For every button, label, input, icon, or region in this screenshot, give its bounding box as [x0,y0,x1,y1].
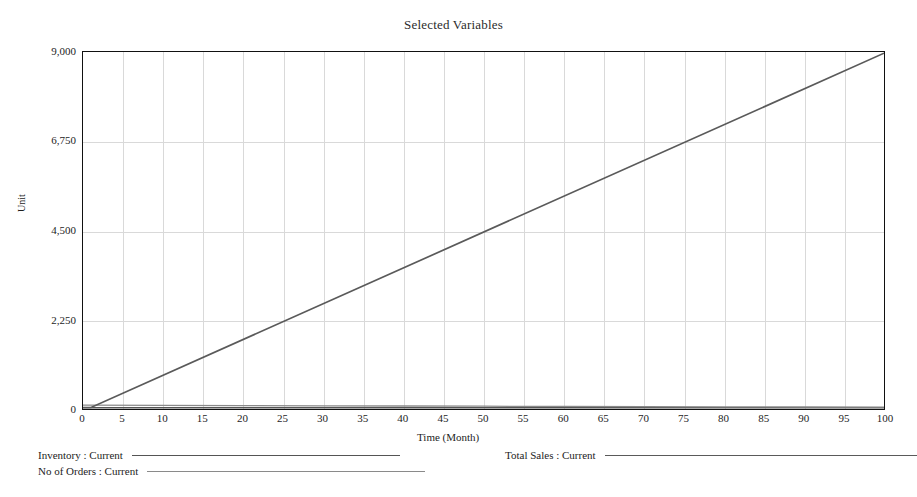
x-tick-label: 70 [623,413,663,424]
y-tick-label: 6,750 [6,135,76,146]
legend-label: Total Sales : Current [505,450,596,461]
x-tick-label: 90 [784,413,824,424]
chart-legend: Inventory : Current No of Orders : Curre… [0,448,907,490]
series-lines [83,52,884,409]
x-tick-label: 85 [744,413,784,424]
plot-area [82,51,885,410]
plot-inner [83,52,884,409]
y-axis-label: Unit [16,194,27,212]
x-tick-label: 35 [343,413,383,424]
x-tick-label: 10 [142,413,182,424]
legend-line-swatch [605,455,917,456]
x-tick-label: 55 [503,413,543,424]
x-tick-label: 30 [303,413,343,424]
legend-label: Inventory : Current [38,450,123,461]
chart-title: Selected Variables [0,17,907,33]
series-line-total-sales-current [83,53,884,407]
series-line-no-of-orders-current [83,405,884,407]
legend-line-swatch [132,455,400,456]
y-tick-label: 2,250 [6,315,76,326]
x-tick-label: 60 [543,413,583,424]
legend-item-inventory-current[interactable]: Inventory : Current [38,450,400,461]
y-tick-label: 4,500 [6,225,76,236]
legend-line-swatch [147,471,425,472]
x-tick-label: 0 [62,413,102,424]
x-tick-label: 5 [102,413,142,424]
x-tick-label: 20 [222,413,262,424]
x-tick-label: 25 [263,413,303,424]
x-tick-label: 65 [583,413,623,424]
x-tick-label: 50 [463,413,503,424]
x-tick-label: 75 [664,413,704,424]
y-tick-label: 9,000 [6,46,76,57]
legend-label: No of Orders : Current [38,466,138,477]
legend-item-no-of-orders-current[interactable]: No of Orders : Current [38,466,425,477]
y-axis-tick-labels: 9,000 6,750 4,500 2,250 0 [0,51,76,410]
x-tick-label: 95 [824,413,864,424]
x-tick-label: 100 [865,413,905,424]
x-tick-label: 80 [704,413,744,424]
legend-item-total-sales-current[interactable]: Total Sales : Current [505,450,917,461]
x-tick-label: 15 [182,413,222,424]
x-tick-label: 45 [423,413,463,424]
x-axis-tick-labels: 0 5 10 15 20 25 30 35 40 45 50 55 60 65 … [82,413,885,429]
x-tick-label: 40 [383,413,423,424]
x-axis-label: Time (Month) [417,431,479,443]
